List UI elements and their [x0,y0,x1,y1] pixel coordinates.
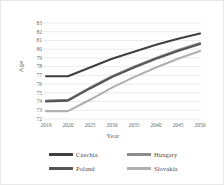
legend-item-czechia[interactable]: Czechia [49,151,121,158]
chart-figure: 7273747576777879808182832019202020252030… [0,0,224,185]
series-line-czechia [46,33,200,76]
y-tick-label: 77 [28,72,42,78]
x-tick-label: 2020 [58,122,78,128]
y-tick-label: 81 [28,37,42,43]
legend-item-slovakia[interactable]: Slovakia [127,165,199,172]
chart-legend: CzechiaHungaryPolandSlovakia [49,151,199,172]
x-tick-label: 2035 [124,122,144,128]
x-tick-label: 2019 [36,122,56,128]
y-tick-label: 74 [28,98,42,104]
legend-item-hungary[interactable]: Hungary [127,151,199,158]
y-tick-label: 82 [28,29,42,35]
y-tick-label: 83 [28,20,42,26]
y-tick-label: 80 [28,46,42,52]
x-tick-label: 2040 [146,122,166,128]
x-tick-label: 2030 [102,122,122,128]
legend-swatch-icon [49,167,73,170]
legend-label: Czechia [76,151,98,158]
y-tick-label: 76 [28,81,42,87]
legend-label: Hungary [154,151,177,158]
legend-swatch-icon [127,153,151,156]
legend-label: Poland [76,165,95,172]
legend-label: Slovakia [154,165,178,172]
x-tick-label: 2045 [168,122,188,128]
x-tick-label: 2025 [80,122,100,128]
legend-swatch-icon [49,153,73,156]
y-tick-label: 73 [28,107,42,113]
y-tick-label: 79 [28,55,42,61]
y-axis-title: Age [17,56,24,78]
legend-item-poland[interactable]: Poland [49,165,121,172]
x-axis-title: Year [1,132,224,139]
y-tick-label: 72 [28,116,42,122]
x-tick-label: 2050 [190,122,210,128]
y-tick-label: 75 [28,90,42,96]
series-line-slovakia [46,51,200,111]
legend-swatch-icon [127,167,151,170]
y-tick-label: 78 [28,63,42,69]
